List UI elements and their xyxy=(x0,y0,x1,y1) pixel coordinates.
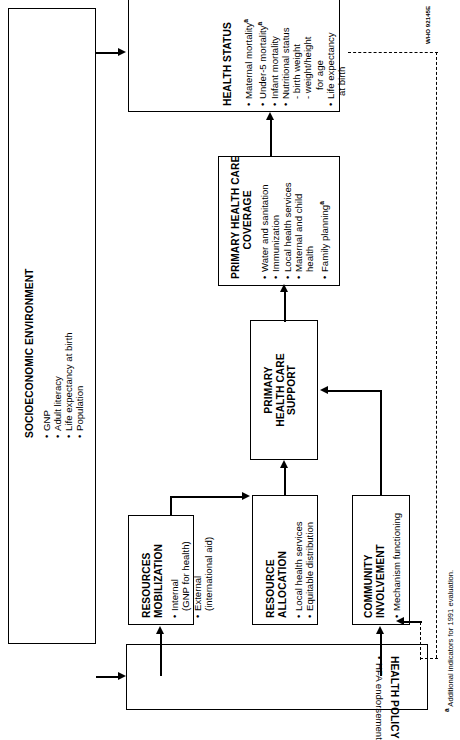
phc-support-title-2: HEALTH CARE xyxy=(275,340,287,440)
health-policy-text: HEALTH POLICY •HFA endorsement xyxy=(374,656,400,740)
phc-coverage-item-1: •Immunization xyxy=(270,161,281,279)
socioeconomic-environment-text: SOCIOECONOMIC ENVIRONMENT •GNP •Adult li… xyxy=(24,269,86,438)
socioeconomic-environment-title: SOCIOECONOMIC ENVIRONMENT xyxy=(24,269,36,438)
connector-policy-to-community xyxy=(380,634,382,676)
health-status-item-6: for age xyxy=(314,19,325,106)
health-status-item-1: •Under-5 mortalitya xyxy=(254,19,268,106)
community-involvement-bullet-0: •Mechanism functioning xyxy=(391,513,402,618)
resource-allocation-title-1: RESOURCE xyxy=(265,521,277,618)
feedback-dashed-top xyxy=(348,52,438,53)
resource-allocation-bullet-0: •Local health services xyxy=(293,521,304,618)
health-status-item-5: - weight/height xyxy=(302,19,313,106)
resources-mobilization-text: RESOURCES MOBILIZATION •Internal (GNP fo… xyxy=(141,537,214,618)
resource-allocation-text: RESOURCE ALLOCATION •Local health servic… xyxy=(265,521,316,618)
resources-mobilization-title-2: MOBILIZATION xyxy=(153,537,165,618)
connector-community-elbow-h xyxy=(328,390,382,392)
socioeconomic-bullet-2: •Life expectancy at birth xyxy=(63,269,74,438)
health-status-title: HEALTH STATUS xyxy=(222,19,234,106)
socioeconomic-bullet-0: •GNP xyxy=(41,269,52,438)
resource-allocation-bullet-1: •Equitable distribution xyxy=(304,521,315,618)
phc-support-title-3: SUPPORT xyxy=(286,340,298,440)
arrowhead-socio-to-status xyxy=(118,48,126,56)
connector-resalloc-to-phcsupport xyxy=(284,468,286,496)
phc-coverage-item-5-marker: a xyxy=(318,201,325,205)
connector-resmob-elbow-h xyxy=(170,496,242,498)
resource-allocation-title-2: ALLOCATION xyxy=(277,521,289,618)
arrowhead-resmob-to-resalloc xyxy=(242,492,250,500)
connector-community-elbow-v xyxy=(380,390,382,496)
resources-mobilization-item-1: •External xyxy=(192,537,203,618)
community-involvement-text: COMMUNITY INVOLVEMENT •Mechanism functio… xyxy=(363,513,402,618)
footnote-text: Additional indicators for 1991 evaluatio… xyxy=(446,570,455,707)
source-code: WHO 92145E xyxy=(424,6,431,44)
community-involvement-title-2: INVOLVEMENT xyxy=(375,513,387,618)
phc-coverage-item-2: •Local health services xyxy=(282,161,293,279)
resources-mobilization-sub-1: (international aid) xyxy=(203,537,214,618)
phc-coverage-item-4: health xyxy=(304,161,315,279)
phc-support-title-1: PRIMARY xyxy=(263,340,275,440)
health-status-item-0: •Maternal mortalitya xyxy=(240,19,254,106)
feedback-dashed-bottom-v xyxy=(420,622,421,660)
arrowhead-resalloc-to-phcsupport xyxy=(280,460,288,468)
resources-mobilization-sub-0: (GNP for health) xyxy=(180,537,191,618)
feedback-stub-to-policy xyxy=(404,621,422,623)
health-status-item-7: •Life expectancy xyxy=(325,19,336,106)
connector-socio-to-policy xyxy=(96,676,118,678)
feedback-dashed-bottom xyxy=(420,658,438,659)
resources-mobilization-title-1: RESOURCES xyxy=(141,537,153,618)
connector-policy-to-resmob xyxy=(160,634,162,676)
footnote: a Additional indicators for 1991 evaluat… xyxy=(443,570,455,712)
health-status-item-4: - birth weight xyxy=(291,19,302,106)
arrowhead-community-to-phcsupport xyxy=(320,386,328,394)
health-status-item-2: •Infant mortality xyxy=(269,19,280,106)
health-status-item-8: at birth xyxy=(336,19,347,106)
phc-coverage-title-2: COVERAGE xyxy=(242,161,254,279)
health-policy-title: HEALTH POLICY xyxy=(388,656,400,740)
connector-resmob-elbow-v xyxy=(170,496,172,516)
resources-mobilization-item-0: •Internal xyxy=(169,537,180,618)
socioeconomic-bullet-1: •Adult literacy xyxy=(52,269,63,438)
phc-support-text: PRIMARY HEALTH CARE SUPPORT xyxy=(263,340,298,440)
arrowhead-phcsupport-to-phccoverage xyxy=(280,284,288,292)
health-status-item-3: •Nutritional status xyxy=(280,19,291,106)
phc-coverage-title-1: PRIMARY HEALTH CARE xyxy=(230,161,242,279)
community-involvement-title-1: COMMUNITY xyxy=(363,513,375,618)
phc-coverage-item-0: •Water and sanitation xyxy=(259,161,270,279)
socioeconomic-bullet-3: •Population xyxy=(74,269,85,438)
footnote-marker: a xyxy=(443,708,450,712)
health-status-text: HEALTH STATUS •Maternal mortalitya •Unde… xyxy=(222,19,348,106)
connector-phcsupport-to-phccoverage xyxy=(284,292,286,322)
connector-socio-to-status xyxy=(96,52,118,54)
arrowhead-feedback-to-policy xyxy=(396,617,404,625)
phc-coverage-text: PRIMARY HEALTH CARE COVERAGE •Water and … xyxy=(230,161,330,279)
phc-coverage-item-3: •Maternal and child xyxy=(293,161,304,279)
arrowhead-policy-to-resmob xyxy=(156,626,164,634)
connector-phccoverage-to-healthstatus xyxy=(270,120,272,156)
phc-coverage-item-5: •Family planninga xyxy=(316,161,330,279)
arrowhead-policy-to-community xyxy=(376,626,384,634)
feedback-dashed-vertical xyxy=(436,52,437,658)
arrowhead-phccoverage-to-healthstatus xyxy=(266,112,274,120)
arrowhead-socio-to-policy xyxy=(118,672,126,680)
